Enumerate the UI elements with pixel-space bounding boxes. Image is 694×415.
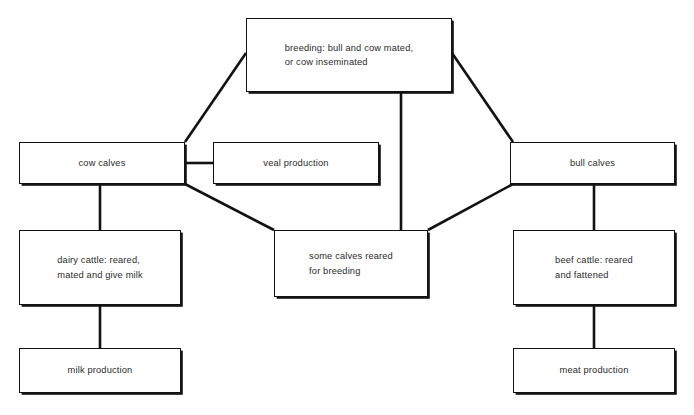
- node-milk-production[interactable]: milk production: [19, 348, 181, 393]
- node-label-beef-cattle: beef cattle: reared and fattened: [551, 253, 637, 282]
- node-label-milk-production: milk production: [64, 363, 137, 377]
- node-meat-production[interactable]: meat production: [513, 348, 675, 393]
- flowchart-canvas: breeding: bull and cow mated, or cow ins…: [0, 0, 694, 415]
- node-label-some-calves: some calves reared for breeding: [305, 249, 397, 278]
- connector-breeding-to-bull-calves: [452, 53, 513, 142]
- node-dairy-cattle[interactable]: dairy cattle: reared, mated and give mil…: [19, 230, 181, 305]
- node-label-veal-production: veal production: [259, 156, 332, 170]
- node-breeding[interactable]: breeding: bull and cow mated, or cow ins…: [246, 18, 452, 92]
- node-beef-cattle[interactable]: beef cattle: reared and fattened: [513, 230, 675, 305]
- node-label-dairy-cattle: dairy cattle: reared, mated and give mil…: [53, 253, 147, 282]
- connector-bull-calves-to-some-calves: [428, 184, 513, 230]
- node-label-breeding: breeding: bull and cow mated, or cow ins…: [281, 41, 417, 70]
- connector-cow-calves-to-some-calves: [185, 184, 274, 230]
- node-label-meat-production: meat production: [556, 363, 633, 377]
- connector-breeding-to-cow-calves: [185, 53, 246, 142]
- node-cow-calves[interactable]: cow calves: [19, 142, 185, 184]
- node-veal-production[interactable]: veal production: [213, 142, 379, 184]
- node-some-calves[interactable]: some calves reared for breeding: [274, 230, 428, 297]
- node-bull-calves[interactable]: bull calves: [510, 142, 675, 184]
- node-label-bull-calves: bull calves: [566, 156, 619, 170]
- node-label-cow-calves: cow calves: [75, 156, 130, 170]
